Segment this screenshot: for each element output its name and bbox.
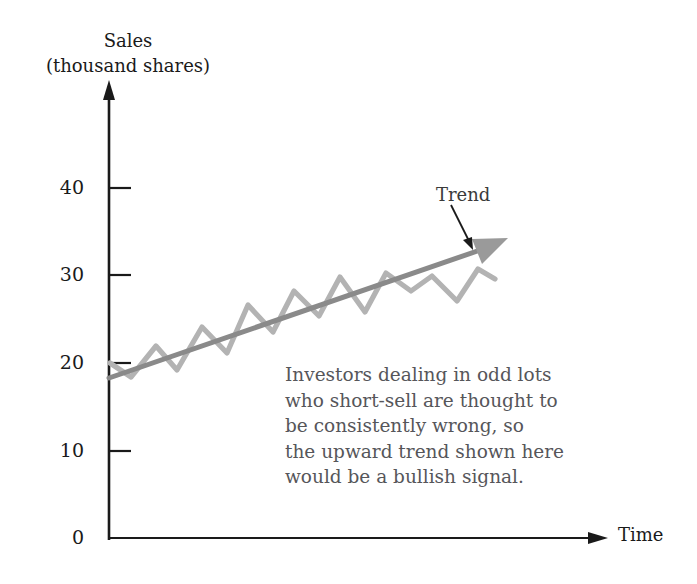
- commentary-line-2: who short-sell are thought to: [285, 390, 558, 411]
- y-tick-label-10: 10: [38, 439, 84, 461]
- y-axis-ticks: [109, 188, 131, 451]
- y-axis-label-line1: Sales: [104, 30, 153, 51]
- y-tick-label-40: 40: [38, 176, 84, 198]
- x-axis: [109, 532, 608, 544]
- y-axis: [103, 80, 115, 540]
- y-tick-label-20: 20: [38, 351, 84, 373]
- commentary-line-4: the upward trend shown here: [285, 441, 564, 462]
- commentary-line-1: Investors dealing in odd lots: [285, 364, 552, 385]
- y-axis-label-line2: (thousand shares): [46, 55, 210, 76]
- trend-leader-arrow: [451, 205, 473, 250]
- commentary-line-3: be consistently wrong, so: [285, 415, 524, 436]
- y-axis-label: Sales(thousand shares): [18, 28, 238, 78]
- commentary-line-5: would be a bullish signal.: [285, 466, 524, 487]
- data-series-zigzag: [110, 269, 495, 377]
- chart-canvas: [0, 0, 697, 584]
- y-tick-label-0: 0: [38, 526, 84, 548]
- trend-line: [109, 238, 508, 378]
- commentary-annotation: Investors dealing in odd lotswho short-s…: [285, 362, 564, 490]
- y-tick-label-30: 30: [38, 263, 84, 285]
- x-axis-label: Time: [618, 524, 663, 545]
- trend-label: Trend: [436, 184, 490, 205]
- chart-figure: Sales(thousand shares) Time 40 30 20 10 …: [0, 0, 697, 584]
